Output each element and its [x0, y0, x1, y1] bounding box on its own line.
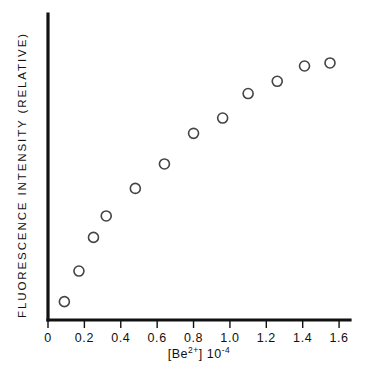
- x-axis-tick-label: 0.4: [111, 331, 130, 345]
- x-axis-title-element: Be: [172, 347, 188, 361]
- x-axis-tick-label: 0.6: [148, 331, 167, 345]
- figure-container: 00.20.40.60.81.01.21.41.6 [Be2+]10-4 FLU…: [0, 0, 371, 372]
- x-axis-tick-label: 1.4: [293, 331, 312, 345]
- data-point-group: [59, 58, 335, 307]
- data-point: [130, 183, 140, 193]
- data-point: [218, 113, 228, 123]
- x-axis-ticks: [48, 321, 339, 328]
- data-point: [243, 89, 253, 99]
- x-axis-tick-label: 0.2: [75, 331, 94, 345]
- x-axis-title-charge: 2+: [188, 345, 199, 355]
- x-axis-tick-labels: 00.20.40.60.81.01.21.41.6: [44, 331, 348, 345]
- data-point: [159, 159, 169, 169]
- data-point: [189, 128, 199, 138]
- data-point: [74, 266, 84, 276]
- data-point: [272, 76, 282, 86]
- y-axis-title: FLUORESCENCE INTENSITY (RELATIVE): [16, 32, 28, 318]
- x-axis-tick-label: 1.2: [257, 331, 276, 345]
- x-axis-tick-label: 1.6: [329, 331, 348, 345]
- data-point: [88, 232, 98, 242]
- x-axis-title-factor-base: 10: [207, 347, 222, 361]
- data-point: [101, 211, 111, 221]
- x-axis-tick-label: 0: [44, 331, 52, 345]
- x-axis-tick-label: 1.0: [220, 331, 239, 345]
- data-point: [300, 61, 310, 71]
- x-axis-tick-label: 0.8: [184, 331, 203, 345]
- scatter-plot: 00.20.40.60.81.01.21.41.6 [Be2+]10-4 FLU…: [0, 0, 371, 372]
- data-point: [325, 58, 335, 68]
- x-axis-title-bracket-close: ]: [199, 347, 203, 361]
- x-axis-title-factor-exponent: -4: [222, 345, 231, 355]
- data-point: [59, 297, 69, 307]
- x-axis-title: [Be2+]10-4: [168, 345, 230, 361]
